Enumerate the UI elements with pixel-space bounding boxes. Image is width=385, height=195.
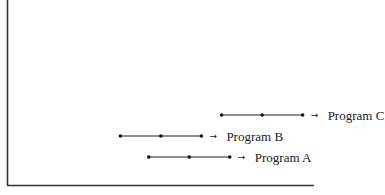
series-label: Program A xyxy=(255,150,312,165)
data-point xyxy=(187,155,191,159)
series-program-c: →Program C xyxy=(220,108,385,123)
data-point xyxy=(220,113,224,117)
data-point xyxy=(228,155,232,159)
data-point xyxy=(119,134,123,138)
arrow-icon: → xyxy=(311,110,319,120)
arrow-icon: → xyxy=(209,131,217,141)
data-point xyxy=(159,134,163,138)
series-label: Program C xyxy=(328,108,385,123)
data-point xyxy=(200,134,204,138)
series-label: Program B xyxy=(226,129,283,144)
series-program-b: →Program B xyxy=(119,129,284,144)
arrow-icon: → xyxy=(238,152,246,162)
data-point xyxy=(147,155,151,159)
series-program-a: →Program A xyxy=(147,150,312,165)
data-point xyxy=(301,113,305,117)
data-point xyxy=(260,113,264,117)
chart: →Program A→Program B→Program C xyxy=(0,0,385,195)
